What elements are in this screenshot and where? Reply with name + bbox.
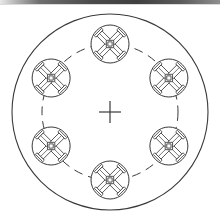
plate-assembly-drawing xyxy=(0,0,220,224)
fixture-upper-left[interactable] xyxy=(27,54,75,102)
technical-drawing-canvas xyxy=(0,0,220,224)
fixture-upper-right[interactable] xyxy=(145,54,193,102)
center-crosshair xyxy=(99,101,121,123)
fixture-top[interactable] xyxy=(86,20,134,68)
fixture-bottom[interactable] xyxy=(86,156,134,204)
fixture-lower-left[interactable] xyxy=(27,122,75,170)
fixture-lower-right[interactable] xyxy=(145,122,193,170)
